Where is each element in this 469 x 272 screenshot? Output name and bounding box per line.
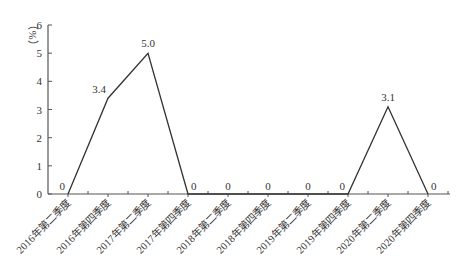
data-point-label: 3.1 xyxy=(381,91,395,103)
data-point-label: 0 xyxy=(225,180,231,192)
y-tick-label: 2 xyxy=(37,132,43,144)
y-tick-label: 0 xyxy=(37,188,43,200)
data-point-label: 5.0 xyxy=(141,37,155,49)
data-point-label: 0 xyxy=(265,180,271,192)
data-point-label: 0 xyxy=(191,180,197,192)
data-point-label: 3.4 xyxy=(92,83,106,95)
data-point-label: 0 xyxy=(305,180,311,192)
y-tick-label: 3 xyxy=(37,104,43,116)
data-point-label: 0 xyxy=(340,180,346,192)
y-tick-label: 1 xyxy=(37,160,43,172)
line-chart: （%） 0123456 03.45.0000003.10 2016年第二季度20… xyxy=(0,0,469,272)
data-point-label: 0 xyxy=(60,180,66,192)
y-tick-label: 6 xyxy=(37,19,43,31)
x-axis-category-labels: 2016年第二季度2016年第四季度2017年第二季度2017年第四季度2018… xyxy=(14,196,433,255)
y-tick-label: 5 xyxy=(37,47,43,59)
y-tick-label: 4 xyxy=(37,75,43,87)
data-point-label: 0 xyxy=(431,180,437,192)
data-line xyxy=(68,53,428,194)
data-labels: 03.45.0000003.10 xyxy=(60,37,438,192)
